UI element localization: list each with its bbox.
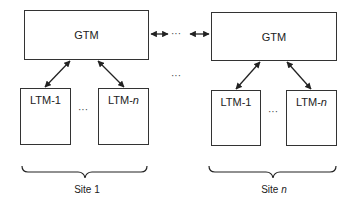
site1-brace: [22, 166, 147, 178]
siten-gtm-ltm1-arrow: [236, 62, 260, 89]
site1-gtm-ltm1-arrow: [45, 61, 70, 87]
siten-brace: [209, 166, 336, 178]
connectors-layer: [0, 0, 353, 203]
siten-gtm-ltmn-arrow: [287, 62, 311, 89]
site1-gtm-ltmn-arrow: [98, 61, 124, 87]
